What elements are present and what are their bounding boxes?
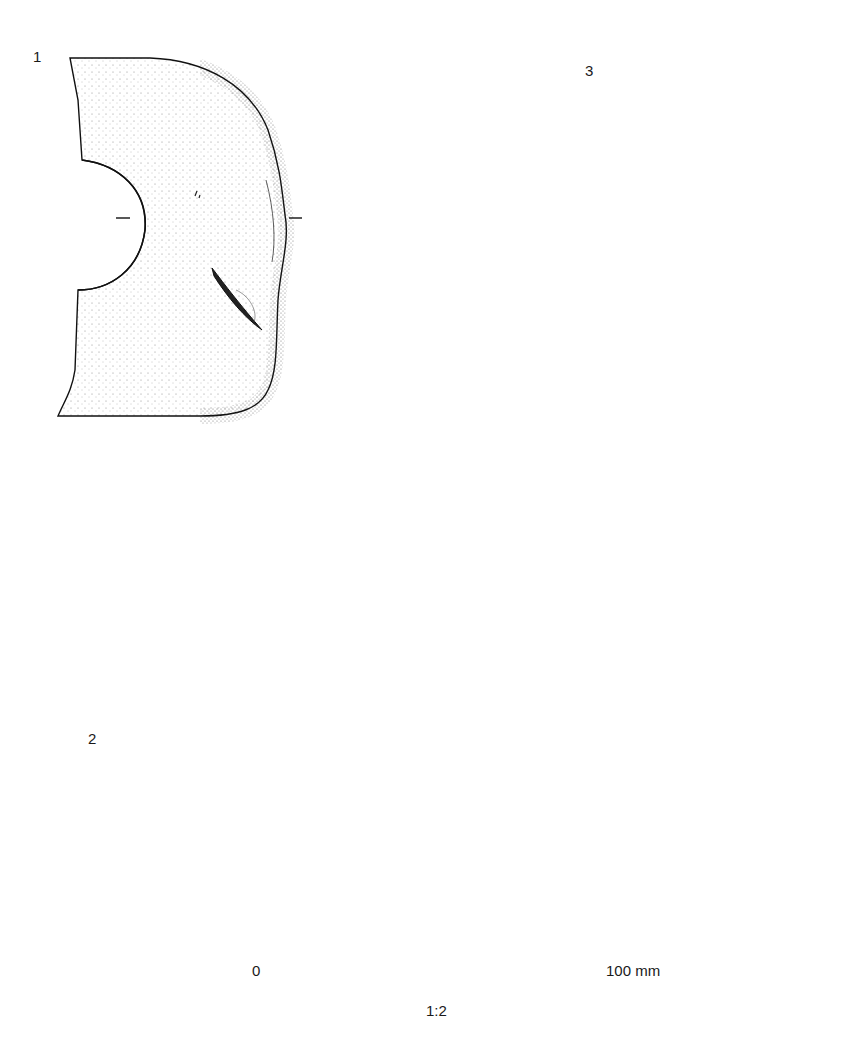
scale-ratio-label: 1:2: [426, 1002, 447, 1019]
scale-start-label: 0: [252, 962, 260, 979]
scale-end-label: 100 mm: [606, 962, 660, 979]
object-3-number: 3: [585, 62, 593, 79]
object-2-number: 2: [88, 730, 96, 747]
drawing-canvas: [0, 0, 841, 1061]
object-1-plan: [58, 58, 302, 416]
object-1-number: 1: [33, 48, 41, 65]
